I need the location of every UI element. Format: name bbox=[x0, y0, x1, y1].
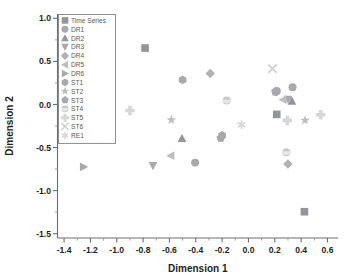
data-point-plus bbox=[283, 116, 293, 126]
legend-label: RE1 bbox=[71, 132, 84, 139]
data-point-hexagon bbox=[179, 76, 187, 85]
legend-label: DR3 bbox=[71, 43, 85, 50]
data-point-circle bbox=[191, 159, 199, 167]
series-dr1 bbox=[191, 83, 296, 166]
series-time-series bbox=[141, 44, 308, 215]
legend: Time SeriesDR1DR2DR3DR4DR5DR6ST1ST2ST3ST… bbox=[59, 15, 116, 144]
x-tick-label: 0.4 bbox=[295, 245, 307, 255]
x-tick-label: -0.6 bbox=[162, 245, 177, 255]
plot-canvas: 1.00.50.0-0.5-1.0-1.5-1.4-1.2-1.0-0.8-0.… bbox=[0, 0, 346, 280]
x-tick-label: -1.2 bbox=[83, 245, 98, 255]
y-tick-label: -0.5 bbox=[36, 143, 51, 153]
series-dr4 bbox=[206, 69, 293, 169]
scatter-plot-figure: 1.00.50.0-0.5-1.0-1.5-1.4-1.2-1.0-0.8-0.… bbox=[0, 0, 346, 280]
data-point-star bbox=[300, 115, 310, 124]
x-tick-label: 0.6 bbox=[321, 245, 333, 255]
series-dr5 bbox=[166, 95, 286, 160]
legend-marker-circle bbox=[62, 26, 69, 33]
y-axis-title: Dimension 2 bbox=[4, 96, 15, 156]
legend-label: ST6 bbox=[71, 123, 83, 130]
data-point-star bbox=[167, 115, 177, 124]
series-st3 bbox=[216, 87, 279, 142]
legend-item-dr4[interactable]: DR4 bbox=[61, 52, 85, 60]
legend-label: ST1 bbox=[71, 79, 83, 86]
data-point-square bbox=[301, 208, 309, 216]
x-tick-label: -0.8 bbox=[136, 245, 151, 255]
legend-label: DR6 bbox=[71, 70, 85, 77]
series-st5 bbox=[125, 106, 325, 125]
series-st4 bbox=[223, 97, 291, 157]
data-point-triangle-down bbox=[149, 162, 158, 170]
legend-item-st4[interactable]: ST4 bbox=[62, 105, 84, 112]
legend-item-dr2[interactable]: DR2 bbox=[61, 34, 84, 41]
data-point-x bbox=[268, 65, 276, 73]
legend-marker-square bbox=[62, 17, 69, 24]
series-st6 bbox=[268, 65, 276, 73]
legend-label: DR1 bbox=[71, 26, 85, 33]
data-point-plus bbox=[316, 110, 326, 120]
data-points bbox=[80, 44, 325, 215]
y-tick-label: 0.5 bbox=[39, 56, 51, 66]
legend-label: ST4 bbox=[71, 105, 83, 112]
y-tick-label: -1.0 bbox=[36, 186, 51, 196]
series-re1 bbox=[238, 120, 246, 129]
data-point-diamond bbox=[283, 159, 293, 169]
x-axis-title: Dimension 1 bbox=[168, 263, 228, 274]
y-tick-label: -1.5 bbox=[36, 229, 51, 239]
x-tick-label: 0.0 bbox=[242, 245, 254, 255]
legend-item-re1[interactable]: RE1 bbox=[62, 132, 84, 140]
data-point-square bbox=[273, 111, 281, 119]
series-dr2 bbox=[178, 96, 297, 142]
data-point-plus bbox=[125, 106, 135, 116]
data-point-circle bbox=[289, 83, 297, 91]
x-tick-label: -1.4 bbox=[57, 245, 72, 255]
data-point-triangle-left bbox=[278, 95, 286, 104]
x-tick-label: -0.2 bbox=[215, 245, 230, 255]
legend-label: ST5 bbox=[71, 114, 83, 121]
legend-label: ST3 bbox=[71, 97, 83, 104]
x-tick-label: -1.0 bbox=[109, 245, 124, 255]
legend-label: DR5 bbox=[71, 61, 85, 68]
legend-item-st1[interactable]: ST1 bbox=[62, 79, 84, 87]
y-tick-label: 0.0 bbox=[39, 100, 51, 110]
data-point-triangle-left bbox=[166, 151, 174, 160]
x-tick-label: -0.4 bbox=[188, 245, 203, 255]
legend-label: Time Series bbox=[71, 17, 107, 24]
legend-label: DR4 bbox=[71, 52, 85, 59]
legend-item-st3[interactable]: ST3 bbox=[61, 96, 83, 103]
data-point-asterisk bbox=[238, 120, 246, 129]
data-point-triangle-right bbox=[80, 163, 88, 172]
data-point-triangle-up bbox=[178, 134, 187, 142]
data-point-diamond bbox=[206, 69, 216, 79]
data-point-square bbox=[141, 44, 149, 52]
legend-item-dr3[interactable]: DR3 bbox=[61, 43, 84, 50]
series-dr6 bbox=[80, 163, 88, 172]
x-tick-label: 0.2 bbox=[269, 245, 281, 255]
series-st1 bbox=[179, 76, 280, 140]
legend-label: ST2 bbox=[71, 88, 83, 95]
y-tick-label: 1.0 bbox=[39, 13, 51, 23]
legend-item-dr1[interactable]: DR1 bbox=[62, 26, 85, 33]
legend-item-st5[interactable]: ST5 bbox=[61, 114, 84, 122]
legend-label: DR2 bbox=[71, 35, 85, 42]
